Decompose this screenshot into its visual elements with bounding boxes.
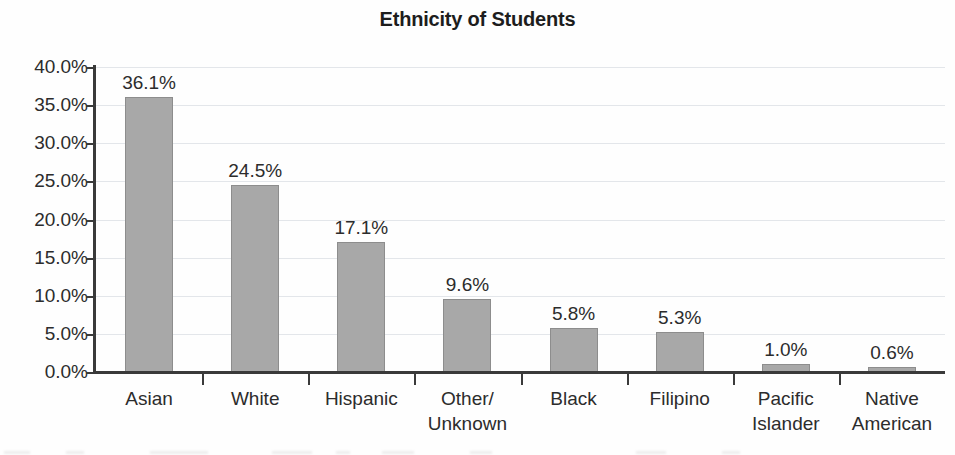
y-axis-tick (86, 334, 94, 336)
x-axis-category-label: Hispanic (308, 386, 414, 411)
x-axis-category-label-line: White (202, 386, 308, 411)
chart-figure: Ethnicity of Students 40.0%35.0%30.0%25.… (0, 0, 955, 455)
bar[interactable] (550, 328, 598, 372)
y-axis-tick-label: 25.0% (4, 170, 88, 192)
y-axis-tick-label: 40.0% (4, 56, 88, 78)
y-axis: 40.0%35.0%30.0%25.0%20.0%15.0%10.0%5.0%0… (0, 0, 88, 455)
bar[interactable] (231, 185, 279, 372)
x-axis-category-label-line: Asian (96, 386, 202, 411)
y-axis-tick (86, 67, 94, 69)
x-axis-tick (414, 374, 416, 385)
x-axis-tick (202, 374, 204, 385)
y-axis-tick-label: 0.0% (4, 361, 88, 383)
bar-value-label: 5.3% (658, 307, 701, 329)
bar-value-label: 1.0% (764, 339, 807, 361)
x-axis-tick (521, 374, 523, 385)
x-axis-tick (308, 374, 310, 385)
y-axis-tick-label: 15.0% (4, 247, 88, 269)
x-axis-category-label: Filipino (627, 386, 733, 411)
bar-value-label: 0.6% (870, 342, 913, 364)
x-axis-category-label: Asian (96, 386, 202, 411)
bar-group[interactable]: 5.8% (521, 67, 627, 372)
x-axis-category-label-line: Hispanic (308, 386, 414, 411)
y-axis-tick-label: 5.0% (4, 323, 88, 345)
y-axis-tick (86, 372, 94, 374)
bar-group[interactable]: 0.6% (839, 67, 945, 372)
page-title: Ethnicity of Students (0, 8, 955, 31)
x-axis-category-label: PacificIslander (733, 386, 839, 436)
bar-group[interactable]: 24.5% (202, 67, 308, 372)
scan-artifacts (0, 445, 955, 455)
bar-value-label: 24.5% (228, 160, 282, 182)
x-axis-tick (733, 374, 735, 385)
bar-group[interactable]: 17.1% (308, 67, 414, 372)
bar-group[interactable]: 1.0% (733, 67, 839, 372)
x-axis-category-label-line: Native (839, 386, 945, 411)
bar-value-label: 36.1% (122, 72, 176, 94)
bar-value-label: 9.6% (446, 274, 489, 296)
x-axis-tick (839, 374, 841, 385)
x-axis-category-label-line: Other/ (414, 386, 520, 411)
x-axis-category-label: NativeAmerican (839, 386, 945, 436)
y-axis-tick-label: 20.0% (4, 209, 88, 231)
x-axis-category-label: Other/Unknown (414, 386, 520, 436)
x-axis-tick (627, 374, 629, 385)
x-axis-line (94, 371, 945, 374)
bar-group[interactable]: 36.1% (96, 67, 202, 372)
bar-group[interactable]: 5.3% (627, 67, 733, 372)
x-axis-category-label-line: Black (521, 386, 627, 411)
x-axis-category-label-line: Unknown (414, 411, 520, 436)
y-axis-tick-label: 10.0% (4, 285, 88, 307)
bar-group[interactable]: 9.6% (414, 67, 520, 372)
y-axis-tick (86, 220, 94, 222)
y-axis-tick-label: 35.0% (4, 94, 88, 116)
y-axis-tick (86, 105, 94, 107)
y-axis-tick (86, 181, 94, 183)
bar[interactable] (443, 299, 491, 372)
x-axis-category-label: White (202, 386, 308, 411)
x-axis-category-label-line: Islander (733, 411, 839, 436)
bar-value-label: 5.8% (552, 303, 595, 325)
y-axis-tick-label: 30.0% (4, 132, 88, 154)
bar[interactable] (125, 97, 173, 372)
y-axis-tick (86, 258, 94, 260)
x-axis-category-label-line: American (839, 411, 945, 436)
x-axis-category-label-line: Filipino (627, 386, 733, 411)
x-axis-category-label-line: Pacific (733, 386, 839, 411)
bar[interactable] (656, 332, 704, 372)
plot-area: 36.1%24.5%17.1%9.6%5.8%5.3%1.0%0.6% (96, 67, 945, 372)
bar-value-label: 17.1% (334, 217, 388, 239)
y-axis-tick (86, 296, 94, 298)
y-axis-tick (86, 143, 94, 145)
x-axis-category-label: Black (521, 386, 627, 411)
bar[interactable] (337, 242, 385, 372)
